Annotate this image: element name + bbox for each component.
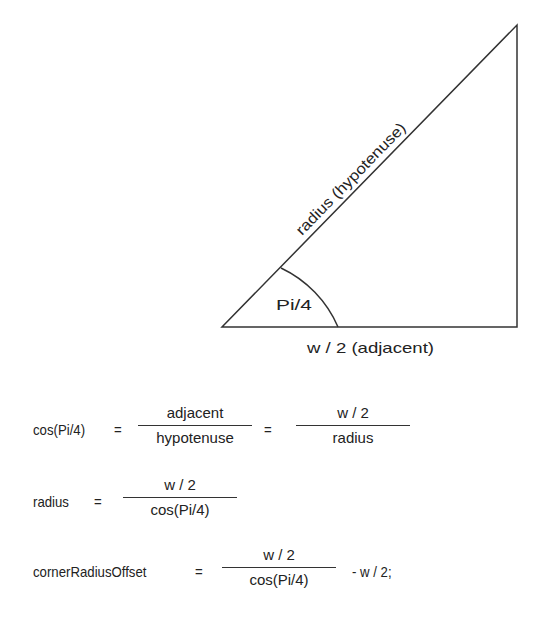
eq3-lhs: cornerRadiusOffset [33, 563, 146, 580]
eq1-frac1-numerator: adjacent [138, 404, 252, 422]
eq1-equals-1: = [114, 421, 122, 438]
eq2-lhs: radius [33, 493, 69, 510]
eq2-denominator: cos(Pi/4) [123, 501, 237, 519]
triangle-diagram: radius (hypotenuse) Pi/4 w / 2 (adjacent… [0, 0, 539, 634]
right-triangle [222, 25, 517, 327]
fraction-bar [123, 497, 237, 498]
fraction-bar [296, 425, 410, 426]
eq1-fraction-w2-radius: w / 2 radius [296, 404, 410, 447]
eq1-lhs: cos(Pi/4) [33, 421, 85, 438]
eq2-fraction: w / 2 cos(Pi/4) [123, 476, 237, 519]
fraction-bar [222, 567, 336, 568]
eq2-equals: = [94, 493, 102, 510]
hypotenuse-label: radius (hypotenuse) [292, 119, 409, 238]
eq3-tail: - w / 2; [352, 563, 392, 580]
eq3-denominator: cos(Pi/4) [222, 571, 336, 589]
eq3-fraction: w / 2 cos(Pi/4) [222, 546, 336, 589]
angle-label: Pi/4 [276, 296, 312, 313]
adjacent-label: w / 2 (adjacent) [306, 339, 434, 356]
eq1-fraction-adjacent-hypotenuse: adjacent hypotenuse [138, 404, 252, 447]
fraction-bar [138, 425, 252, 426]
eq1-frac2-numerator: w / 2 [296, 404, 410, 422]
eq2-numerator: w / 2 [123, 476, 237, 494]
eq3-equals: = [195, 563, 203, 580]
eq1-equals-2: = [264, 421, 272, 438]
eq3-numerator: w / 2 [222, 546, 336, 564]
eq1-frac2-denominator: radius [296, 429, 410, 447]
eq1-frac1-denominator: hypotenuse [138, 429, 252, 447]
